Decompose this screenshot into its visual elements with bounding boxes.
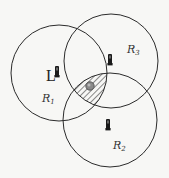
region-label-r3: R3 xyxy=(126,43,140,57)
diagram-svg: L R1 R3 R2 xyxy=(0,0,169,178)
annotation-letter: L xyxy=(46,67,56,84)
phone-icon-r3 xyxy=(107,54,112,65)
region-label-r2: R2 xyxy=(112,139,126,153)
trilateration-diagram: L R1 R3 R2 xyxy=(0,0,169,178)
phone-icon-r2 xyxy=(105,119,110,130)
region-label-r1: R1 xyxy=(41,92,55,106)
target-location-icon xyxy=(86,82,94,90)
